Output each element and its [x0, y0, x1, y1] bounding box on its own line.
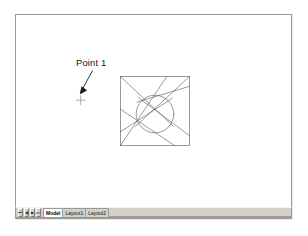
tab-layout2[interactable]: Layout2	[85, 208, 109, 217]
leader-line	[82, 70, 93, 90]
point-1-leader	[80, 70, 92, 93]
tab-model[interactable]: Model	[43, 208, 63, 217]
layout-tab-bar: ⏮ ◀ ▶ ⏭ Model Layout1 Layout2	[15, 207, 292, 218]
tab-nav-next-icon[interactable]: ▶	[30, 208, 35, 217]
tab-navigation-buttons: ⏮ ◀ ▶ ⏭	[16, 208, 42, 217]
application-window: Point 1 ⏮ ◀ ▶ ⏭ Model Layout1 Layout2	[0, 0, 308, 236]
drawing-canvas[interactable]	[16, 15, 291, 218]
blade-line	[120, 76, 167, 145]
tab-strip: Model Layout1 Layout2	[42, 208, 291, 217]
tab-nav-previous-icon[interactable]: ◀	[24, 208, 29, 217]
tab-nav-first-icon[interactable]: ⏮	[18, 208, 23, 217]
cad-drawing-window[interactable]: Point 1	[15, 14, 292, 219]
square-boundary	[120, 76, 189, 145]
iris-aperture-drawing	[120, 76, 189, 145]
point-1-node-marker	[76, 95, 86, 105]
tab-layout1[interactable]: Layout1	[62, 208, 86, 217]
blade-line	[137, 86, 190, 102]
tab-nav-last-icon[interactable]: ⏭	[36, 208, 41, 217]
blade-line	[120, 109, 174, 146]
point-1-label: Point 1	[76, 57, 106, 68]
tab-strip-filler	[108, 216, 291, 217]
blade-line	[120, 76, 173, 126]
leader-arrowhead	[80, 87, 86, 94]
